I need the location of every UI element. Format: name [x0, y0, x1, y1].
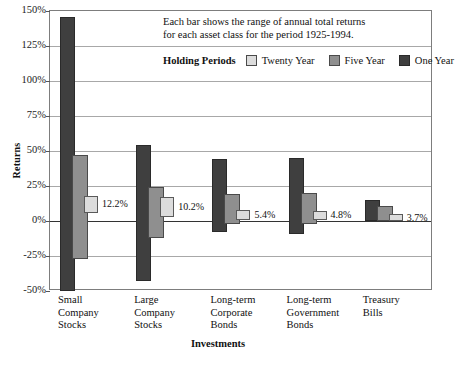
- x-category-line: Long-term: [210, 294, 255, 307]
- plot-area: 12.2%10.2%5.4%4.8%3.7% Each bar shows th…: [49, 10, 432, 290]
- bar-twenty-year: [313, 211, 327, 219]
- x-category-line: Government: [287, 307, 340, 320]
- annotation-line-1: Each bar shows the range of annual total…: [163, 15, 421, 28]
- annotation-line-2: for each asset class for the period 1925…: [163, 28, 421, 41]
- bar-value-label: 5.4%: [254, 209, 275, 220]
- bar-value-label: 3.7%: [407, 212, 428, 223]
- legend-item-one-year: One Year: [399, 55, 454, 66]
- y-tick-label: 50%: [2, 145, 46, 156]
- x-category-line: Large: [134, 294, 175, 307]
- x-category-line: Treasury: [363, 294, 400, 307]
- bar-twenty-year: [160, 197, 174, 217]
- x-category-label: LargeCompanyStocks: [134, 294, 175, 332]
- x-category-label: TreasuryBills: [363, 294, 400, 319]
- legend-title-line-2: Periods: [202, 55, 236, 66]
- y-tick-label: 25%: [2, 180, 46, 191]
- bar-value-label: 12.2%: [102, 198, 128, 209]
- x-category-line: Company: [134, 307, 175, 320]
- x-category-line: Company: [58, 307, 99, 320]
- y-tick-label: -25%: [2, 250, 46, 261]
- legend-title: Holding Periods: [163, 55, 236, 66]
- y-axis-tick-labels: 150%125%100%75%50%25%0%-25%-50%: [0, 0, 46, 367]
- x-category-label: Long-termCorporateBonds: [210, 294, 255, 332]
- y-tick-label: 100%: [2, 75, 46, 86]
- legend-swatch-twenty-year-icon: [246, 55, 257, 66]
- x-category-line: Stocks: [134, 319, 175, 332]
- bar-group: 3.7%: [355, 11, 431, 289]
- legend-label-five-year: Five Year: [345, 55, 385, 66]
- y-tick-label: 75%: [2, 110, 46, 121]
- x-category-line: Stocks: [58, 319, 99, 332]
- legend-swatch-five-year-icon: [329, 55, 340, 66]
- y-tick-label: 150%: [2, 5, 46, 16]
- x-category-line: Bonds: [210, 319, 255, 332]
- x-category-line: Bonds: [287, 319, 340, 332]
- chart-annotation: Each bar shows the range of annual total…: [163, 15, 421, 41]
- legend-title-line-1: Holding: [163, 55, 199, 66]
- bar-value-label: 10.2%: [178, 201, 204, 212]
- legend-label-twenty-year: Twenty Year: [262, 55, 315, 66]
- bar-group: 4.8%: [279, 11, 355, 289]
- legend-label-one-year: One Year: [415, 55, 454, 66]
- x-axis-category-labels: SmallCompanyStocksLargeCompanyStocksLong…: [49, 294, 432, 344]
- bar-twenty-year: [236, 210, 250, 220]
- x-category-line: Long-term: [287, 294, 340, 307]
- y-tick-mark: [46, 291, 50, 292]
- bar-twenty-year: [84, 196, 98, 213]
- y-tick-label: -50%: [2, 285, 46, 296]
- legend-item-five-year: Five Year: [329, 55, 385, 66]
- x-category-label: SmallCompanyStocks: [58, 294, 99, 332]
- bar-group: 10.2%: [126, 11, 202, 289]
- legend: Holding Periods Twenty Year Five Year On…: [163, 55, 459, 66]
- x-category-line: Small: [58, 294, 99, 307]
- y-tick-label: 125%: [2, 40, 46, 51]
- bar-value-label: 4.8%: [331, 209, 352, 220]
- legend-swatch-one-year-icon: [399, 55, 410, 66]
- bar-group: 5.4%: [202, 11, 278, 289]
- x-axis-title: Investments: [0, 338, 436, 349]
- y-tick-label: 0%: [2, 215, 46, 226]
- bar-twenty-year: [389, 214, 403, 221]
- bar-group: 12.2%: [50, 11, 126, 289]
- x-category-label: Long-termGovernmentBonds: [287, 294, 340, 332]
- legend-item-twenty-year: Twenty Year: [246, 55, 315, 66]
- x-category-line: Bills: [363, 307, 400, 320]
- x-category-line: Corporate: [210, 307, 255, 320]
